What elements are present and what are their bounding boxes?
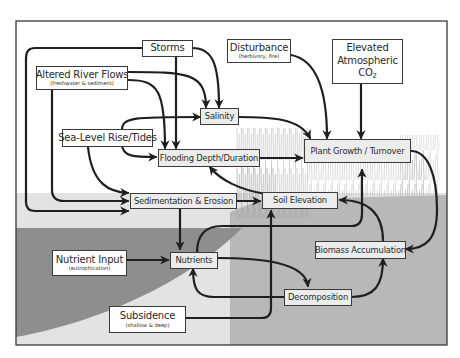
storms-label: Storms bbox=[150, 43, 184, 54]
salinity-box: Salinity bbox=[200, 108, 239, 125]
wetland-diagram: Storms Altered River Flows (freshwater &… bbox=[0, 0, 460, 358]
co2-subscript: 2 bbox=[373, 72, 377, 80]
flooding-label: Flooding Depth/Duration bbox=[160, 154, 258, 163]
elevated-co2-line3: CO2 bbox=[358, 67, 377, 81]
disturbance-sublabel: (herbivory, fire) bbox=[239, 54, 280, 59]
elevated-co2-line1: Elevated bbox=[346, 42, 388, 55]
decomposition-label: Decomposition bbox=[288, 293, 348, 302]
plant-growth-box: Plant Growth / Turnover bbox=[304, 139, 411, 163]
soil-elevation-label: Soil Elevation bbox=[273, 196, 327, 205]
nutrient-input-label: Nutrient Input bbox=[56, 255, 123, 266]
flooding-box: Flooding Depth/Duration bbox=[158, 149, 260, 167]
subsidence-sublabel: (shallow & deep) bbox=[126, 323, 170, 328]
sedimentation-box: Sedimentation & Erosion bbox=[130, 193, 237, 209]
nutrients-box: Nutrients bbox=[170, 252, 218, 269]
disturbance-box: Disturbance (herbivory, fire) bbox=[227, 39, 291, 63]
altered-river-flows-sublabel: (freshwater & sediment) bbox=[50, 81, 113, 86]
plant-growth-label: Plant Growth / Turnover bbox=[310, 147, 404, 156]
biomass-box: Biomass Accumulation bbox=[315, 241, 406, 259]
salinity-label: Salinity bbox=[205, 112, 234, 121]
decomposition-box: Decomposition bbox=[284, 289, 352, 306]
biomass-label: Biomass Accumulation bbox=[315, 246, 406, 255]
nutrient-input-box: Nutrient Input (eutrophication) bbox=[52, 250, 127, 276]
soil-elevation-box: Soil Elevation bbox=[262, 192, 338, 209]
subsidence-box: Subsidence (shallow & deep) bbox=[109, 306, 186, 333]
sea-level-box: Sea-Level Rise/Tides bbox=[62, 129, 153, 147]
altered-river-flows-label: Altered River Flows bbox=[36, 70, 129, 81]
subsidence-label: Subsidence bbox=[120, 311, 176, 322]
co2-text: CO bbox=[358, 67, 372, 78]
elevated-co2-box: Elevated Atmospheric CO2 bbox=[332, 39, 403, 84]
elevated-co2-line2: Atmospheric bbox=[337, 55, 398, 68]
nutrient-input-sublabel: (eutrophication) bbox=[69, 266, 111, 271]
altered-river-flows-box: Altered River Flows (freshwater & sedime… bbox=[36, 66, 128, 90]
sedimentation-label: Sedimentation & Erosion bbox=[134, 197, 233, 206]
storms-box: Storms bbox=[142, 40, 193, 57]
nutrients-label: Nutrients bbox=[176, 256, 213, 265]
sea-level-label: Sea-Level Rise/Tides bbox=[58, 133, 157, 144]
disturbance-label: Disturbance bbox=[230, 43, 288, 54]
